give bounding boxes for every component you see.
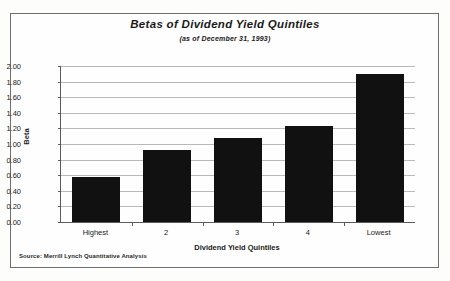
x-tick-label: Lowest	[343, 228, 414, 237]
bar	[143, 150, 191, 222]
x-axis-title: Dividend Yield Quintiles	[60, 243, 414, 252]
bar-slot	[132, 66, 203, 222]
x-tick-mark	[203, 222, 204, 226]
x-tick-label: Highest	[60, 228, 131, 237]
bar	[72, 177, 120, 222]
y-tick-label: 0.80	[0, 156, 21, 165]
y-tick-label: 1.00	[0, 140, 21, 149]
x-tick-label: 4	[272, 228, 343, 237]
y-tick-label: 1.80	[0, 78, 21, 87]
bar	[214, 138, 262, 222]
bar-slot	[273, 66, 344, 222]
y-axis-title: Beta	[22, 128, 31, 144]
chart-title: Betas of Dividend Yield Quintiles	[0, 18, 450, 30]
chart-subtitle: (as of December 31, 1993)	[0, 35, 450, 42]
y-tick-label: 1.20	[0, 124, 21, 133]
source-note: Source: Merrill Lynch Quantitative Analy…	[19, 253, 147, 259]
y-tick-label: 0.00	[0, 218, 21, 227]
x-tick-label: 3	[202, 228, 273, 237]
chart-figure: Betas of Dividend Yield Quintiles (as of…	[0, 0, 450, 281]
y-tick-label: 0.40	[0, 187, 21, 196]
x-tick-mark	[132, 222, 133, 226]
bar-series	[61, 66, 415, 222]
bar-slot	[344, 66, 415, 222]
x-tick-mark	[273, 222, 274, 226]
title-block: Betas of Dividend Yield Quintiles (as of…	[0, 18, 450, 42]
y-tick-label: 0.20	[0, 202, 21, 211]
x-tick-label: 2	[131, 228, 202, 237]
bar-slot	[203, 66, 274, 222]
y-tick-label: 1.40	[0, 109, 21, 118]
y-tick-label: 2.00	[0, 62, 21, 71]
bar	[285, 126, 333, 222]
y-tick-label: 1.60	[0, 93, 21, 102]
bar-slot	[61, 66, 132, 222]
y-tick-label: 0.60	[0, 171, 21, 180]
y-tick-mark	[58, 222, 62, 223]
plot-area: 2.001.801.601.401.201.000.800.600.400.20…	[60, 66, 415, 223]
x-tick-mark	[344, 222, 345, 226]
bar	[356, 74, 404, 222]
